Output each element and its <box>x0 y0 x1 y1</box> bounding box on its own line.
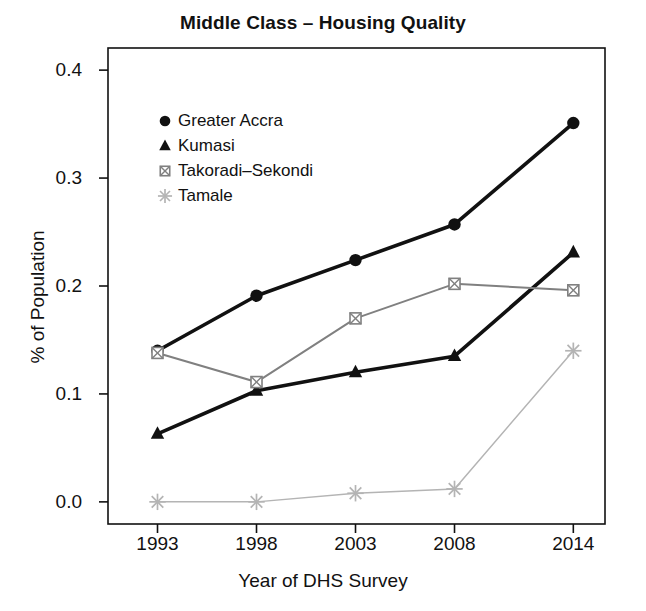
y-tick-label-text: 0.3 <box>22 167 82 189</box>
legend-item-label: Tamale <box>178 187 233 204</box>
marker-square-x <box>449 278 460 289</box>
series-line <box>158 284 574 382</box>
legend-item-label: Takoradi–Sekondi <box>178 162 313 179</box>
y-axis-label: % of Population <box>27 107 49 487</box>
x-tick-label: 2003 <box>321 533 391 555</box>
chart-legend: Greater AccraKumasiTakoradi–SekondiTamal… <box>152 108 313 208</box>
series-line <box>158 253 574 434</box>
marker-circle <box>349 254 361 266</box>
x-tick-label: 2014 <box>538 533 608 555</box>
legend-square-with-x-icon <box>152 160 178 182</box>
y-tick-label: 0.2 <box>22 275 82 297</box>
marker-square-x <box>251 377 262 388</box>
chart-title: Middle Class – Housing Quality <box>0 12 646 34</box>
marker-asterisk <box>347 485 363 501</box>
plot-canvas <box>0 0 646 611</box>
y-tick-label-text: 0.0 <box>22 491 82 513</box>
x-axis-label: Year of DHS Survey <box>0 570 646 592</box>
x-tick-label: 2008 <box>420 533 490 555</box>
marker-asterisk <box>158 188 172 202</box>
y-tick-label: 0.3 <box>22 167 82 189</box>
legend-item-label: Kumasi <box>178 137 235 154</box>
legend-item-label: Greater Accra <box>178 112 283 129</box>
series-tamale <box>149 343 581 511</box>
marker-triangle <box>159 139 171 150</box>
marker-circle <box>567 117 579 129</box>
y-tick-label: 0.4 <box>22 59 82 81</box>
marker-square-x <box>160 166 169 175</box>
chart-figure: Middle Class – Housing Quality % of Popu… <box>0 0 646 611</box>
marker-triangle <box>567 245 580 258</box>
legend-filled-circle-icon <box>152 110 178 132</box>
marker-square-x <box>568 285 579 296</box>
marker-asterisk <box>149 494 165 510</box>
marker-circle <box>250 290 262 302</box>
series-line <box>158 351 574 502</box>
legend-item: Tamale <box>152 183 313 208</box>
marker-square-x <box>152 347 163 358</box>
x-tick-label: 1998 <box>222 533 292 555</box>
y-tick-label: 0.0 <box>22 491 82 513</box>
y-tick-label: 0.1 <box>22 383 82 405</box>
marker-asterisk <box>565 343 581 359</box>
marker-circle <box>160 115 171 126</box>
x-tick-label: 1993 <box>123 533 193 555</box>
legend-item: Greater Accra <box>152 108 313 133</box>
marker-asterisk <box>248 494 264 510</box>
legend-item: Takoradi–Sekondi <box>152 158 313 183</box>
marker-asterisk <box>446 481 462 497</box>
marker-square-x <box>350 313 361 324</box>
marker-circle <box>448 218 460 230</box>
y-tick-label-text: 0.1 <box>22 383 82 405</box>
y-tick-label-text: 0.2 <box>22 275 82 297</box>
legend-asterisk-icon <box>152 185 178 207</box>
y-tick-label-text: 0.4 <box>22 59 82 81</box>
legend-item: Kumasi <box>152 133 313 158</box>
legend-filled-triangle-icon <box>152 135 178 157</box>
series-kumasi <box>151 245 580 439</box>
